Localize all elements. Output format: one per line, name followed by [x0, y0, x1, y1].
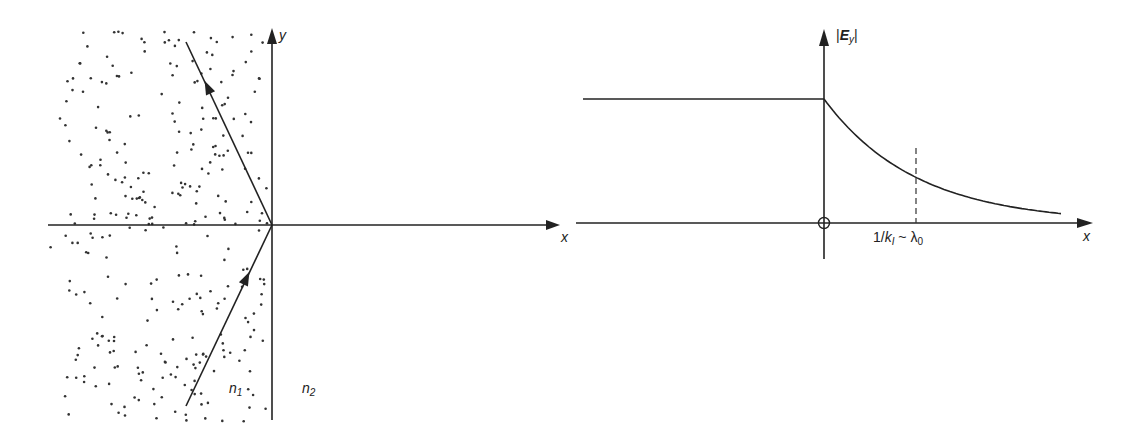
medium-dot — [260, 293, 263, 296]
medium-dot — [141, 199, 144, 202]
medium-dot — [200, 403, 203, 406]
medium-dot — [227, 248, 230, 251]
medium-dot — [90, 183, 93, 186]
medium-dot — [112, 350, 115, 353]
medium-dot — [78, 62, 81, 65]
medium-dot — [258, 177, 261, 180]
medium-dot — [135, 214, 138, 217]
medium-dot — [133, 396, 136, 399]
medium-dot — [101, 316, 104, 319]
medium-dot — [96, 332, 99, 335]
medium-dot — [206, 235, 209, 238]
medium-dot — [64, 124, 67, 127]
medium-dot — [69, 213, 72, 216]
medium-dot — [245, 61, 248, 64]
medium-dot — [160, 353, 163, 356]
medium-dot — [231, 74, 234, 77]
medium-dot — [130, 72, 133, 75]
medium-dot — [259, 220, 262, 223]
medium-dot — [185, 358, 188, 361]
medium-dot — [137, 366, 140, 369]
medium-dot — [181, 186, 184, 189]
medium-dot — [209, 161, 212, 164]
medium-dot — [244, 317, 247, 320]
medium-dot — [223, 356, 226, 359]
medium-dot — [221, 168, 224, 171]
medium-dot — [94, 197, 97, 200]
medium-dot — [155, 417, 158, 420]
medium-dot — [193, 393, 196, 396]
medium-dot — [64, 235, 67, 238]
medium-dot — [184, 183, 187, 186]
medium-dot — [169, 62, 172, 65]
medium-dot — [188, 298, 191, 301]
medium-dot — [195, 202, 198, 205]
right-y-label: |Ey| — [836, 27, 858, 45]
medium-dot — [202, 353, 205, 356]
medium-dot — [227, 96, 230, 99]
medium-dot — [204, 417, 207, 420]
medium-dot — [116, 297, 119, 300]
medium-1-dots — [49, 30, 268, 422]
medium-dot — [99, 164, 102, 167]
medium-dot — [216, 41, 219, 44]
medium-dot — [170, 373, 173, 376]
medium-dot — [97, 106, 100, 109]
left-x-axis-arrow-icon — [546, 220, 560, 230]
medium-dot — [153, 403, 156, 406]
medium-dot — [176, 65, 179, 68]
medium-dot — [95, 127, 98, 130]
medium-dot — [193, 31, 196, 34]
left-panel: y x n1 n2 — [48, 27, 569, 423]
medium-dot — [189, 185, 192, 188]
medium-dot — [75, 293, 78, 296]
medium-dot — [178, 101, 181, 104]
medium-dot — [219, 212, 222, 215]
medium-dot — [196, 80, 199, 83]
medium-dot — [91, 237, 94, 240]
medium-dot — [249, 336, 252, 339]
medium-dot — [214, 145, 217, 148]
medium-dot — [114, 179, 117, 182]
medium-dot — [176, 366, 179, 369]
medium-dot — [248, 406, 251, 409]
medium-dot — [220, 81, 223, 84]
medium-dot — [118, 75, 121, 78]
medium-dot — [246, 268, 249, 271]
medium-dot — [198, 185, 201, 188]
medium-dot — [217, 195, 220, 198]
medium-dot — [142, 190, 145, 193]
medium-dot — [258, 77, 261, 80]
medium-dot — [69, 280, 72, 283]
medium-dot — [223, 259, 226, 262]
medium-dot — [89, 302, 92, 305]
medium-dot — [68, 289, 71, 292]
medium-dot — [259, 278, 262, 281]
medium-dot — [109, 351, 112, 354]
medium-dot — [142, 172, 145, 175]
medium-dot — [124, 283, 127, 286]
medium-dot — [193, 380, 196, 383]
medium-dot — [227, 149, 230, 152]
medium-dot — [191, 336, 194, 339]
medium-dot — [111, 65, 114, 68]
medium-dot — [109, 234, 112, 237]
medium-dot — [185, 414, 188, 417]
medium-dot — [148, 217, 151, 220]
medium-dot — [116, 151, 119, 154]
medium-dot — [202, 313, 205, 316]
medium-dot — [222, 342, 225, 345]
medium-dot — [121, 181, 124, 184]
medium-dot — [105, 82, 108, 85]
medium-dot — [110, 212, 113, 215]
medium-dot — [244, 113, 247, 116]
evanescent-decay-curve — [824, 99, 1061, 214]
medium-dot — [140, 38, 143, 41]
medium-dot — [177, 308, 180, 311]
medium-dot — [116, 365, 119, 368]
medium-dot — [263, 283, 266, 286]
medium-dot — [153, 206, 156, 209]
medium-dot — [127, 213, 130, 216]
medium-dot — [210, 37, 213, 40]
medium-dot — [82, 32, 85, 35]
